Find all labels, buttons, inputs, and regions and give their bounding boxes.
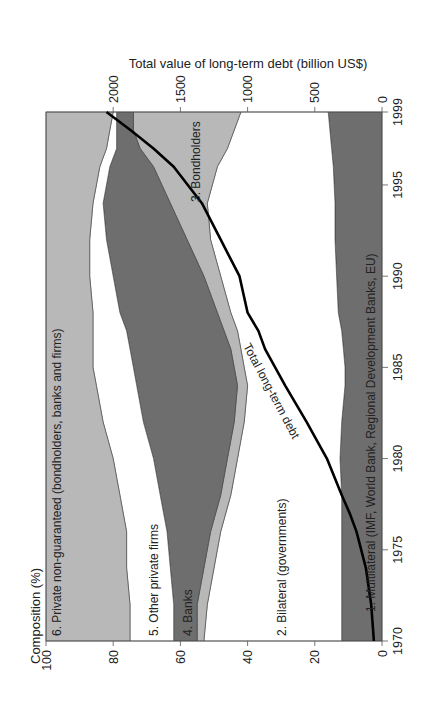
debt-axis-title: Total value of long-term debt (billion U…	[129, 56, 367, 71]
composition-tick-label: 20	[308, 650, 322, 664]
label-band3-bondholders: 3. Bondholders	[189, 121, 203, 202]
composition-tick-label: 60	[174, 650, 188, 664]
label-band2-bilateral: 2. Bilateral (governments)	[275, 499, 289, 636]
composition-axis-title: Composition (%)	[28, 568, 43, 664]
debt-tick-label: 2000	[107, 75, 121, 103]
label-band5-other-private: 5. Other private firms	[147, 524, 161, 636]
year-tick-label: 1995	[391, 171, 405, 199]
year-tick-label: 1980	[391, 445, 405, 473]
debt-composition-chart: 0204060801000500100015002000197019751980…	[0, 0, 433, 715]
year-tick-label: 1985	[391, 353, 405, 381]
year-tick-label: 1999	[391, 98, 405, 126]
debt-tick-label: 0	[376, 96, 390, 103]
debt-tick-label: 1500	[174, 75, 188, 103]
year-tick-label: 1990	[391, 262, 405, 290]
year-tick-label: 1975	[391, 536, 405, 564]
composition-tick-label: 0	[376, 650, 390, 657]
debt-tick-label: 500	[308, 82, 322, 103]
composition-tick-label: 40	[241, 650, 255, 664]
label-band4-banks: 4. Banks	[181, 589, 195, 636]
label-band6-private-nonguaranteed: 6. Private non-guaranteed (bondholders, …	[50, 328, 64, 636]
label-band1-multilateral: 1. Multilateral (IMF, World Bank, Region…	[364, 253, 378, 612]
debt-tick-label: 1000	[241, 75, 255, 103]
stacked-area-bands	[46, 112, 382, 641]
year-tick-label: 1970	[391, 627, 405, 655]
composition-tick-label: 80	[107, 650, 121, 664]
